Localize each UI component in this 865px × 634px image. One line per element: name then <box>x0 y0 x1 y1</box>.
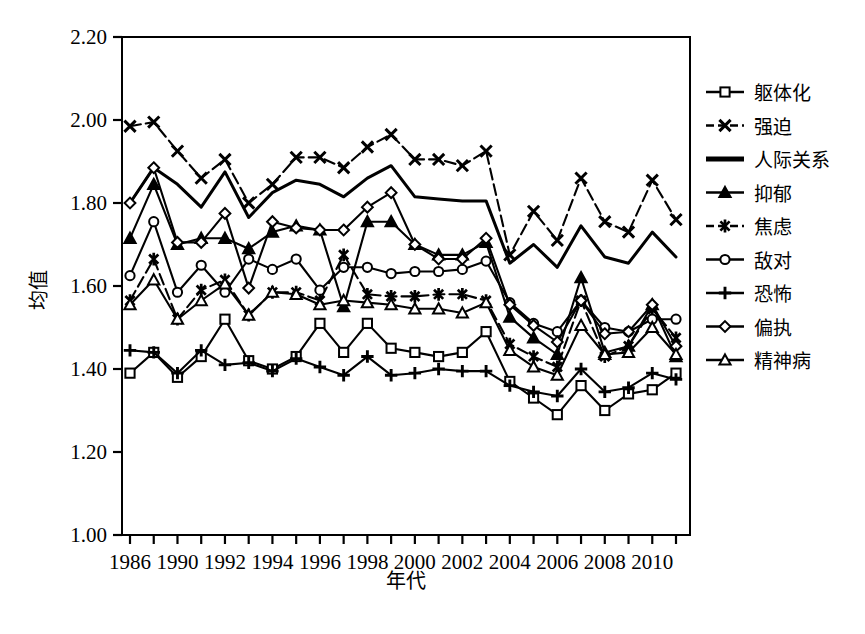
data-point-marker <box>173 288 182 297</box>
data-point-marker <box>410 267 419 276</box>
y-axis-tick-label: 1.80 <box>70 191 107 215</box>
legend-label: 人际关系 <box>754 149 830 171</box>
data-point-marker <box>387 344 396 353</box>
legend-label: 敌对 <box>754 250 792 272</box>
data-point-marker <box>458 265 467 274</box>
x-axis-title: 年代 <box>386 569 426 593</box>
data-point-marker <box>458 348 467 357</box>
x-axis-tick-label: 2004 <box>489 550 532 574</box>
data-point-marker <box>720 255 729 264</box>
legend-label: 抑郁 <box>754 183 792 205</box>
x-axis-tick-label: 1986 <box>109 550 151 574</box>
data-point-marker <box>220 315 229 324</box>
y-axis-tick-label: 2.00 <box>70 108 107 132</box>
data-point-marker <box>553 410 562 419</box>
figure-container: 1.001.201.401.601.802.002.20 19861990199… <box>0 0 865 634</box>
data-point-marker <box>434 267 443 276</box>
legend-label: 恐怖 <box>754 283 792 305</box>
data-point-marker <box>363 319 372 328</box>
legend-label: 强迫 <box>754 116 792 138</box>
data-point-marker <box>149 217 158 226</box>
data-point-marker <box>315 319 324 328</box>
data-point-marker <box>244 254 253 263</box>
y-axis-tick-label: 1.00 <box>70 523 107 547</box>
x-axis-tick-label: 2006 <box>536 550 578 574</box>
x-axis-tick-label: 2002 <box>441 550 483 574</box>
data-point-marker <box>315 286 324 295</box>
data-point-marker <box>387 269 396 278</box>
data-point-marker <box>434 352 443 361</box>
data-point-marker <box>576 381 585 390</box>
y-axis-tick-label: 2.20 <box>70 25 107 49</box>
data-point-marker <box>268 265 277 274</box>
y-axis-title: 均值 <box>27 270 51 310</box>
legend-label: 躯体化 <box>754 82 811 104</box>
data-point-marker <box>197 261 206 270</box>
line-chart: 1.001.201.401.601.802.002.20 19861990199… <box>0 0 865 634</box>
data-point-marker <box>339 263 348 272</box>
y-axis-tick-label: 1.20 <box>70 440 107 464</box>
data-point-marker <box>125 369 134 378</box>
x-axis-tick-label: 1996 <box>299 550 341 574</box>
y-axis-tick-label: 1.40 <box>70 357 107 381</box>
legend-label: 焦虑 <box>754 216 792 238</box>
x-axis-tick-label: 1998 <box>346 550 388 574</box>
data-point-marker <box>600 406 609 415</box>
data-point-marker <box>363 263 372 272</box>
data-point-marker <box>648 385 657 394</box>
data-point-marker <box>125 271 134 280</box>
legend-label: 偏执 <box>754 317 792 339</box>
data-point-marker <box>339 348 348 357</box>
data-point-marker <box>671 315 680 324</box>
data-point-marker <box>292 254 301 263</box>
data-point-marker <box>481 257 490 266</box>
legend-label: 精神病 <box>754 350 811 372</box>
x-axis-tick-label: 1994 <box>251 550 294 574</box>
data-point-marker <box>720 87 729 96</box>
data-point-marker <box>410 348 419 357</box>
y-axis-tick-label: 1.60 <box>70 274 107 298</box>
x-axis-tick-label: 2008 <box>584 550 626 574</box>
x-axis-tick-label: 1992 <box>204 550 246 574</box>
x-axis-tick-label: 2010 <box>631 550 673 574</box>
x-axis-tick-label: 1990 <box>156 550 198 574</box>
data-point-marker <box>481 327 490 336</box>
